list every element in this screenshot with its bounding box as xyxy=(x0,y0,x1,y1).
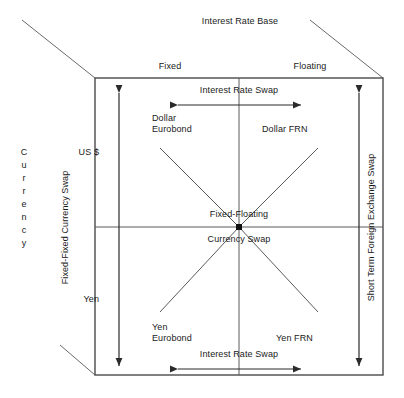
quadrant-label-yen-eurobond-line2: Eurobond xyxy=(152,333,192,344)
column-header-floating: Floating xyxy=(270,61,350,72)
column-header-fixed: Fixed xyxy=(130,61,210,72)
currency-axis-label: C u r r e n c y xyxy=(14,146,34,250)
short-term-fx-swap-label: Short Term Foreign Exchange Swap xyxy=(366,128,377,328)
center-node-marker xyxy=(236,224,242,230)
quadrant-label-yen-frn: Yen FRN xyxy=(276,333,313,344)
top-interest-rate-swap-label: Interest Rate Swap xyxy=(174,85,304,96)
swap-matrix-diagram: Interest Rate Base Fixed Floating C u r … xyxy=(0,0,404,398)
quadrant-label-dollar-eurobond-line2: Eurobond xyxy=(152,124,192,135)
bottom-interest-rate-swap-label: Interest Rate Swap xyxy=(174,349,304,360)
center-label-line2: Currency Swap xyxy=(179,234,299,245)
interest-rate-base-title: Interest Rate Base xyxy=(125,16,355,27)
perspective-line-top-left xyxy=(22,20,95,78)
fixed-fixed-currency-swap-label: Fixed-Fixed Currency Swap xyxy=(60,148,71,308)
perspective-line-bottom-left xyxy=(60,345,95,375)
quadrant-label-yen-eurobond-line1: Yen xyxy=(152,322,168,333)
center-label-line1: Fixed-Floating xyxy=(179,209,299,220)
quadrant-label-dollar-frn: Dollar FRN xyxy=(262,124,308,135)
quadrant-label-dollar-eurobond-line1: Dollar xyxy=(152,113,176,124)
